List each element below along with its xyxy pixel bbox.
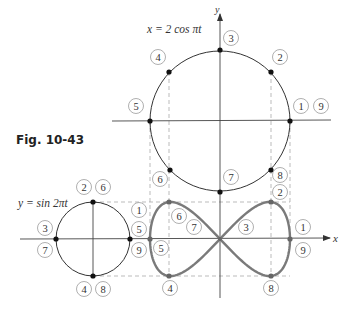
lemniscate-label: 7 bbox=[187, 220, 202, 235]
lemniscate-label: 6 bbox=[172, 209, 187, 224]
big-circle-x-axis bbox=[112, 120, 331, 121]
svg-text:1: 1 bbox=[136, 205, 141, 216]
big-circle-label: 2 bbox=[273, 50, 288, 65]
lissajous-figure: 342519678263715948267315948 x = 2 cos πt… bbox=[0, 0, 354, 310]
small-circle-label: 1 bbox=[132, 203, 147, 218]
small-circle-label: 6 bbox=[96, 180, 111, 195]
svg-text:5: 5 bbox=[136, 224, 141, 235]
svg-text:3: 3 bbox=[243, 222, 248, 233]
small-circle-label: 5 bbox=[132, 222, 147, 237]
svg-text:5: 5 bbox=[133, 101, 138, 112]
x-axis bbox=[20, 238, 330, 239]
big-circle-label: 7 bbox=[224, 170, 239, 185]
big-circle-label: 9 bbox=[314, 99, 329, 114]
svg-text:1: 1 bbox=[300, 222, 305, 233]
svg-text:8: 8 bbox=[268, 283, 273, 294]
lemniscate-label: 9 bbox=[296, 243, 311, 258]
svg-text:2: 2 bbox=[81, 182, 86, 193]
big-circle-label: 1 bbox=[294, 99, 309, 114]
lemniscate-label: 4 bbox=[163, 281, 178, 296]
svg-text:9: 9 bbox=[300, 245, 305, 256]
small-circle-label: 4 bbox=[77, 282, 92, 297]
small-circle-label: 3 bbox=[38, 221, 53, 236]
svg-text:3: 3 bbox=[228, 33, 233, 44]
svg-text:2: 2 bbox=[277, 52, 282, 63]
big-circle-label: 8 bbox=[273, 168, 288, 183]
big-circle-label: 5 bbox=[129, 99, 144, 114]
lemniscate-label: 1 bbox=[296, 220, 311, 235]
small-circle-label: 2 bbox=[77, 180, 92, 195]
svg-text:2: 2 bbox=[277, 187, 282, 198]
top-equation: x = 2 cos πt bbox=[146, 23, 202, 35]
svg-text:7: 7 bbox=[42, 245, 47, 256]
svg-text:9: 9 bbox=[136, 245, 141, 256]
svg-text:4: 4 bbox=[81, 284, 87, 295]
x-axis-label: x bbox=[332, 232, 338, 244]
projection-lines bbox=[93, 72, 290, 276]
y-axis-label: y bbox=[214, 4, 220, 15]
lemniscate-label: 2 bbox=[273, 185, 288, 200]
big-circle-label: 3 bbox=[224, 31, 239, 46]
svg-text:6: 6 bbox=[100, 182, 105, 193]
left-equation: y = sin 2πt bbox=[17, 197, 68, 210]
point-labels: 342519678263715948267315948 bbox=[38, 31, 329, 297]
figure-caption: Fig. 10-43 bbox=[16, 133, 84, 147]
svg-text:8: 8 bbox=[100, 284, 105, 295]
svg-text:4: 4 bbox=[155, 52, 161, 63]
svg-text:4: 4 bbox=[167, 283, 173, 294]
lemniscate-label: 8 bbox=[264, 281, 279, 296]
svg-text:8: 8 bbox=[277, 170, 282, 181]
lemniscate-label: 3 bbox=[239, 220, 254, 235]
svg-text:7: 7 bbox=[191, 222, 196, 233]
svg-text:3: 3 bbox=[42, 223, 47, 234]
svg-text:6: 6 bbox=[176, 211, 181, 222]
svg-text:7: 7 bbox=[228, 172, 233, 183]
small-circle-label: 7 bbox=[38, 243, 53, 258]
small-circle-label: 8 bbox=[96, 282, 111, 297]
big-circle-label: 4 bbox=[151, 50, 166, 65]
svg-text:9: 9 bbox=[318, 101, 323, 112]
svg-text:5: 5 bbox=[158, 243, 163, 254]
small-circle-label: 9 bbox=[132, 243, 147, 258]
big-circle-label: 6 bbox=[153, 172, 168, 187]
svg-text:1: 1 bbox=[298, 101, 303, 112]
lemniscate-label: 5 bbox=[154, 241, 169, 256]
svg-text:6: 6 bbox=[157, 174, 162, 185]
